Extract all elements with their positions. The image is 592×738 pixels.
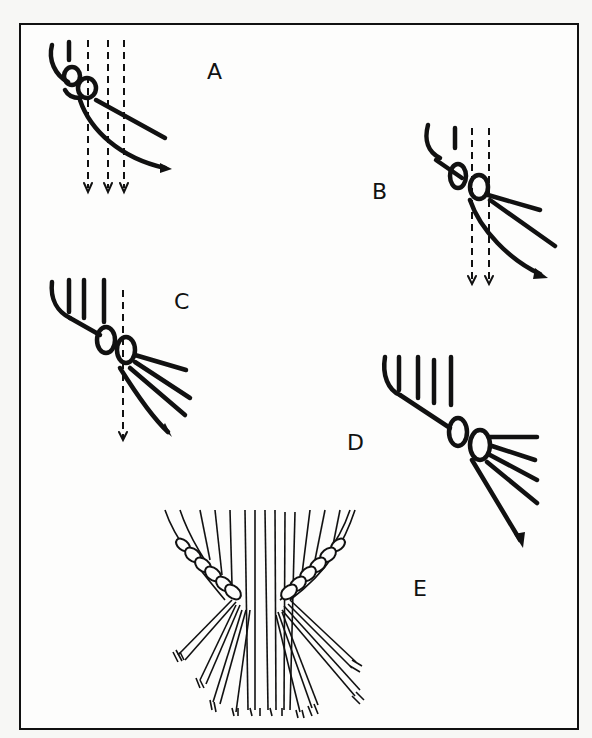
panel-label-e: E: [413, 578, 427, 600]
panel-label-c: C: [174, 291, 189, 313]
panel-c-illustration: [52, 280, 190, 440]
panel-a-illustration: [51, 40, 172, 192]
panel-d-illustration: [384, 357, 537, 548]
panel-label-d: D: [347, 432, 364, 454]
panel-label-b: B: [372, 181, 387, 203]
diagram-canvas: [0, 0, 592, 738]
panel-e-illustration: [165, 510, 364, 718]
panel-label-a: A: [207, 61, 222, 83]
panel-b-illustration: [427, 125, 556, 284]
